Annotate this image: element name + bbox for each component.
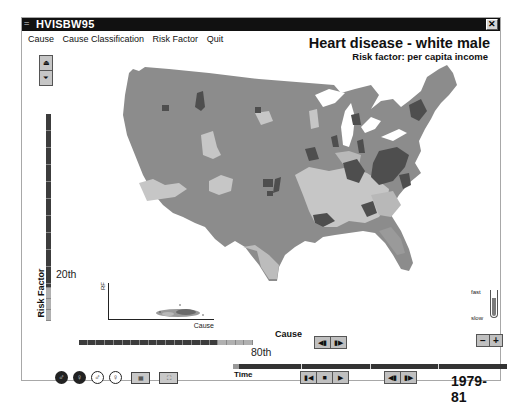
title-bar: = HVISBW95 ✕: [22, 18, 500, 31]
x-axis-label: Cause: [194, 322, 214, 329]
female-outline-icon[interactable]: ♀: [109, 371, 122, 384]
speed-fast-label: fast: [471, 289, 481, 295]
risk-factor-percentile: 20th: [56, 268, 76, 280]
first-frame-button[interactable]: ▮◀: [301, 372, 317, 383]
chart-view-icon[interactable]: ⛶: [159, 372, 178, 384]
time-slider[interactable]: [233, 364, 507, 369]
risk-factor-slider[interactable]: [46, 114, 51, 319]
cause-next-button[interactable]: ▮▶: [331, 337, 346, 348]
window-title: HVISBW95: [36, 18, 95, 31]
menu-risk-factor[interactable]: Risk Factor: [153, 34, 199, 44]
speed-gauge: [490, 290, 498, 318]
male-outline-icon[interactable]: ♂: [91, 371, 104, 384]
scatter-points: [108, 283, 214, 319]
cause-label: Cause: [275, 329, 302, 339]
speed-buttons: − +: [476, 334, 503, 347]
time-slider-thumb[interactable]: [233, 364, 239, 369]
y-axis-label: RF: [100, 282, 106, 290]
speed-minus-button[interactable]: −: [477, 335, 490, 346]
risk-factor-label: Risk Factor: [36, 268, 46, 318]
step-back-button[interactable]: ◀▮: [385, 372, 401, 383]
play-button[interactable]: ▶: [333, 372, 348, 383]
us-county-map[interactable]: [109, 55, 479, 290]
risk-factor-stepper: ⏏ ⏷: [39, 55, 53, 86]
cause-slider[interactable]: [79, 340, 253, 345]
system-menu-icon[interactable]: =: [24, 19, 29, 29]
speed-plus-button[interactable]: +: [490, 335, 502, 346]
speed-slow-label: slow: [471, 315, 483, 321]
cause-percentile: 80th: [251, 346, 271, 358]
playback-controls: ▮◀ ■ ▶: [300, 371, 349, 384]
female-filled-icon[interactable]: ♀: [73, 371, 86, 384]
time-label: Time: [234, 370, 253, 379]
menu-cause-classification[interactable]: Cause Classification: [63, 34, 145, 44]
cause-step-buttons: ◀▮ ▮▶: [314, 336, 347, 349]
step-forward-button[interactable]: ▮▶: [401, 372, 416, 383]
time-step-controls: ◀▮ ▮▶: [384, 371, 417, 384]
x-axis: [108, 319, 214, 320]
arrow-down-button[interactable]: ⏷: [40, 71, 52, 85]
view-toggle-icons: ♂ ♀ ♂ ♀ ▦ ⛶: [55, 371, 178, 384]
app-window: = HVISBW95 ✕ Cause Cause Classification …: [21, 17, 501, 381]
scatter-plot: RF Cause: [108, 283, 214, 321]
year-display: 1979-81: [451, 373, 500, 405]
cause-prev-button[interactable]: ◀▮: [315, 337, 331, 348]
page-title: Heart disease - white male: [309, 35, 490, 51]
arrow-up-button[interactable]: ⏏: [40, 56, 52, 71]
close-button[interactable]: ✕: [486, 19, 498, 30]
menu-quit[interactable]: Quit: [207, 34, 224, 44]
menu-bar: Cause Cause Classification Risk Factor Q…: [28, 34, 229, 44]
menu-cause[interactable]: Cause: [28, 34, 54, 44]
male-filled-icon[interactable]: ♂: [55, 371, 68, 384]
stop-button[interactable]: ■: [317, 372, 333, 383]
map-view-icon[interactable]: ▦: [131, 372, 150, 384]
